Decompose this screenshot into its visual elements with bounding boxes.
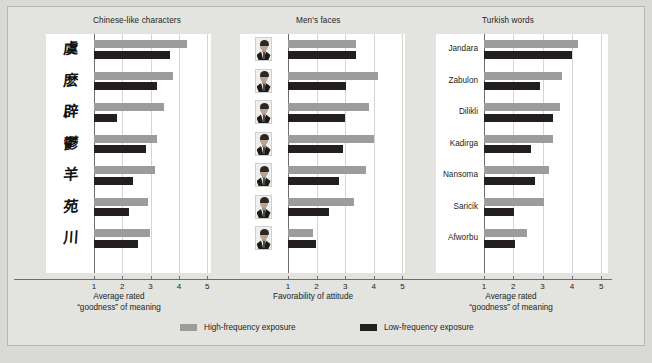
x-tick-3 bbox=[345, 276, 346, 279]
category-label: Dilikli bbox=[406, 107, 478, 116]
panel-title-mens-faces: Men's faces bbox=[296, 16, 341, 25]
gridline-2 bbox=[513, 34, 514, 273]
bar-high-frequency bbox=[94, 198, 148, 206]
category-glyph: 羊 bbox=[58, 166, 83, 183]
bar-low-frequency bbox=[484, 114, 553, 122]
legend: High-frequency exposure Low-frequency ex… bbox=[8, 321, 644, 335]
x-axis-label-line2: “goodness” of meaning bbox=[426, 302, 596, 313]
bar-low-frequency bbox=[288, 114, 345, 122]
bar-low-frequency bbox=[288, 240, 316, 248]
x-axis-label-line1: Average rated bbox=[426, 291, 596, 302]
x-tick-label-1: 1 bbox=[476, 282, 492, 291]
face-tie bbox=[263, 241, 265, 248]
category-face-thumbnail bbox=[255, 37, 272, 61]
panel-title-chinese-characters: Chinese-like characters bbox=[93, 16, 181, 25]
category-glyph: 麽 bbox=[58, 72, 83, 89]
bar-high-frequency bbox=[94, 103, 164, 111]
x-tick-label-3: 3 bbox=[143, 282, 159, 291]
x-tick-2 bbox=[513, 276, 514, 279]
x-tick-label-2: 2 bbox=[309, 282, 325, 291]
bar-low-frequency bbox=[94, 82, 157, 90]
bar-low-frequency bbox=[288, 177, 339, 185]
gridline-3 bbox=[345, 34, 346, 273]
face-hair bbox=[260, 229, 269, 235]
gridline-5 bbox=[402, 34, 403, 273]
category-face-thumbnail bbox=[255, 69, 272, 93]
bar-low-frequency bbox=[484, 51, 572, 59]
face-tie bbox=[263, 147, 265, 154]
x-tick-label-1: 1 bbox=[280, 282, 296, 291]
face-hair bbox=[260, 166, 269, 172]
axis-line bbox=[94, 34, 95, 273]
bar-high-frequency bbox=[484, 229, 527, 237]
x-tick-label-3: 3 bbox=[337, 282, 353, 291]
x-tick-label-4: 4 bbox=[366, 282, 382, 291]
x-axis-baseline bbox=[208, 279, 409, 280]
legend-swatch-low-frequency bbox=[360, 324, 377, 331]
category-face-thumbnail bbox=[255, 100, 272, 124]
x-tick-4 bbox=[179, 276, 180, 279]
bar-high-frequency bbox=[288, 229, 313, 237]
legend-label-low-frequency: Low-frequency exposure bbox=[384, 323, 474, 332]
bar-high-frequency bbox=[288, 72, 378, 80]
bar-low-frequency bbox=[94, 114, 117, 122]
face-hair bbox=[260, 197, 269, 203]
gridline-4 bbox=[179, 34, 180, 273]
category-glyph: 鬱 bbox=[58, 135, 83, 152]
bar-low-frequency bbox=[484, 208, 514, 216]
x-tick-label-4: 4 bbox=[171, 282, 187, 291]
bar-high-frequency bbox=[484, 72, 562, 80]
x-axis-baseline bbox=[404, 279, 612, 280]
category-face-thumbnail bbox=[255, 195, 272, 219]
bar-high-frequency bbox=[484, 135, 553, 143]
x-axis-label-line2: “goodness” of meaning bbox=[34, 302, 204, 313]
x-tick-4 bbox=[374, 276, 375, 279]
bar-high-frequency bbox=[94, 40, 187, 48]
bar-low-frequency bbox=[288, 51, 356, 59]
bar-low-frequency bbox=[484, 145, 531, 153]
gridline-2 bbox=[317, 34, 318, 273]
bar-low-frequency bbox=[94, 145, 146, 153]
legend-label-high-frequency: High-frequency exposure bbox=[204, 323, 295, 332]
category-label: Afworbu bbox=[406, 233, 478, 242]
x-tick-1 bbox=[484, 276, 485, 279]
bar-high-frequency bbox=[288, 40, 356, 48]
bar-high-frequency bbox=[288, 103, 369, 111]
category-face-thumbnail bbox=[255, 226, 272, 250]
x-tick-label-1: 1 bbox=[86, 282, 102, 291]
axis-line bbox=[288, 34, 289, 273]
category-label: Jandara bbox=[406, 44, 478, 53]
x-tick-label-3: 3 bbox=[535, 282, 551, 291]
bar-low-frequency bbox=[94, 51, 170, 59]
category-label: Nansoma bbox=[406, 170, 478, 179]
bar-low-frequency bbox=[288, 82, 346, 90]
bar-low-frequency bbox=[484, 240, 515, 248]
x-tick-1 bbox=[94, 276, 95, 279]
gridline-4 bbox=[374, 34, 375, 273]
gridline-5 bbox=[601, 34, 602, 273]
gridline-5 bbox=[207, 34, 208, 273]
x-tick-4 bbox=[572, 276, 573, 279]
bar-high-frequency bbox=[484, 103, 560, 111]
bar-high-frequency bbox=[94, 229, 150, 237]
x-tick-label-5: 5 bbox=[199, 282, 215, 291]
bar-low-frequency bbox=[484, 82, 540, 90]
bar-high-frequency bbox=[94, 135, 157, 143]
x-axis-label-line1: Favorability of attitude bbox=[228, 291, 398, 302]
legend-swatch-high-frequency bbox=[180, 324, 197, 331]
x-tick-2 bbox=[122, 276, 123, 279]
bar-high-frequency bbox=[484, 166, 549, 174]
x-tick-1 bbox=[288, 276, 289, 279]
face-tie bbox=[263, 178, 265, 185]
bar-high-frequency bbox=[94, 72, 173, 80]
x-tick-5 bbox=[601, 276, 602, 279]
x-tick-label-4: 4 bbox=[564, 282, 580, 291]
face-hair bbox=[260, 40, 269, 46]
face-hair bbox=[260, 103, 269, 109]
x-tick-3 bbox=[151, 276, 152, 279]
x-axis-baseline bbox=[14, 279, 215, 280]
x-axis-label-line1: Average rated bbox=[34, 291, 204, 302]
bar-low-frequency bbox=[484, 177, 535, 185]
bar-high-frequency bbox=[484, 198, 544, 206]
x-tick-label-5: 5 bbox=[593, 282, 609, 291]
